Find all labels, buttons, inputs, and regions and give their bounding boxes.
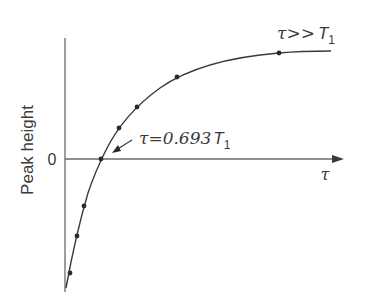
inversion-recovery-chart: Peak height 0 τ τ=0.693T1 τ>>T1 (0, 0, 366, 298)
x-axis-label: τ (321, 165, 331, 184)
x-axis-arrowhead-icon (332, 155, 344, 163)
data-point (277, 51, 282, 56)
recovery-curve (66, 51, 331, 288)
plateau-annotation: τ>>T1 (277, 23, 335, 47)
zero-crossing-prefix: τ=0.693 (139, 128, 211, 148)
data-point (175, 75, 180, 80)
data-point (75, 234, 80, 239)
y-axis-label: Peak height (18, 105, 37, 195)
data-point (135, 105, 140, 110)
zero-crossing-subscript: 1 (224, 138, 231, 152)
plateau-prefix: τ>> (277, 23, 315, 43)
data-point (117, 126, 122, 131)
data-point (68, 271, 73, 276)
data-point (99, 157, 104, 162)
y-zero-tick-label: 0 (48, 151, 57, 168)
data-point (82, 204, 87, 209)
annotation-arrowhead-icon (112, 145, 121, 153)
zero-crossing-annotation: τ=0.693T1 (139, 128, 231, 152)
plateau-subscript: 1 (328, 33, 335, 47)
